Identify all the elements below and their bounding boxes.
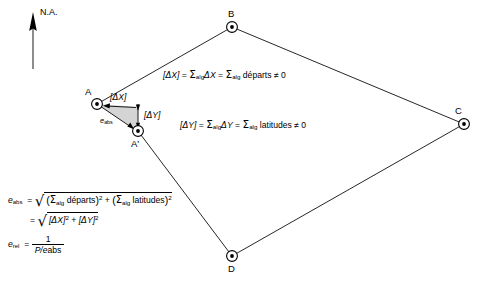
formula-block: eabs = √(Σalg départs)2 + (Σalg latitude…	[8, 186, 218, 260]
formula-erel: erel = 1P/eabs	[8, 234, 64, 255]
station-marker-a-prime	[133, 126, 144, 137]
delta-y-leg-label: [ΔY]	[144, 111, 160, 120]
erel-numerator: 1	[32, 234, 65, 244]
station-marker-c	[459, 119, 470, 130]
station-marker-a	[92, 99, 103, 110]
traverse-edge-cd	[232, 124, 464, 256]
erel-denominator: P/eabs	[32, 244, 65, 255]
station-marker-d	[227, 251, 238, 262]
north-arrow-icon	[29, 12, 37, 69]
station-label-d: D	[228, 264, 235, 274]
formula-eabs-line1: eabs = √(Σalg départs)2 + (Σalg latitude…	[8, 192, 172, 207]
diagram-canvas: N.A. A B C D A' [ΔX] [ΔY] eabs [ΔX] = Σa…	[0, 0, 482, 283]
equation-delta-x: [ΔX] = ΣalgΔX = Σalg départs ≠ 0	[163, 69, 286, 81]
eabs-hypotenuse-label: eabs	[100, 117, 113, 126]
station-label-a: A	[85, 87, 91, 97]
station-label-c: C	[455, 106, 462, 116]
station-marker-b	[227, 22, 238, 33]
delta-x-leg-label: [ΔX]	[110, 93, 126, 102]
formula-eabs-line2: = √[ΔX]2 + [ΔY]2	[30, 212, 98, 227]
equation-delta-y: [ΔY] = ΣalgΔY = Σalg latitudes ≠ 0	[180, 119, 306, 131]
station-label-a-prime: A'	[131, 139, 139, 149]
station-label-b: B	[228, 9, 234, 19]
north-arrow-label: N.A.	[40, 8, 58, 17]
